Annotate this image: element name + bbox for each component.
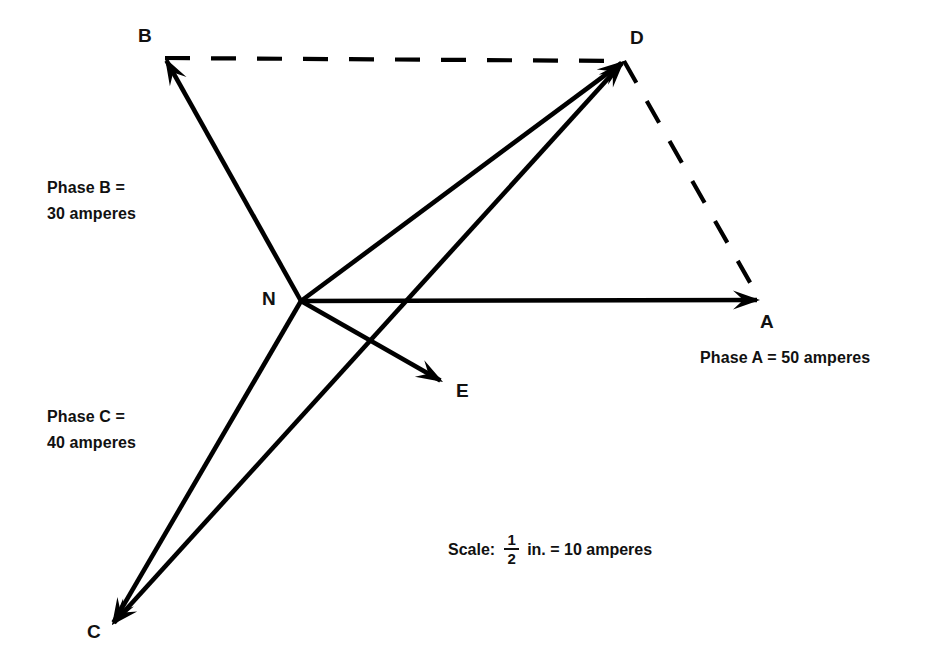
phase-a-line-1: Phase A = 50 amperes (700, 345, 870, 371)
vector-b-to-d (165, 58, 624, 61)
point-label-d: D (630, 28, 644, 47)
point-label-n: N (262, 289, 276, 308)
arrowhead-n-to-e-end (415, 360, 443, 382)
phase-a-annotation: Phase A = 50 amperes (700, 345, 870, 371)
phase-c-annotation: Phase C = 40 amperes (47, 404, 136, 456)
point-label-e: E (456, 381, 469, 400)
phase-c-line-2: 40 amperes (47, 430, 136, 456)
vector-d-to-a (624, 61, 760, 300)
vector-diagram-svg (0, 0, 941, 671)
scale-fraction: 1 2 (504, 532, 519, 567)
phase-b-line-2: 30 amperes (47, 201, 136, 227)
point-label-c: C (87, 622, 101, 641)
scale-tail: in. = 10 amperes (527, 542, 652, 558)
arrowhead-n-to-b-end (165, 58, 186, 86)
point-label-b: B (138, 26, 152, 45)
phase-b-line-1: Phase B = (47, 175, 136, 201)
scale-word: Scale: (448, 542, 495, 558)
vector-n-to-d (301, 63, 622, 301)
vector-diagram-canvas: B D N A E C Phase B = 30 amperes Phase C… (0, 0, 941, 671)
arrowheads-layer (112, 58, 760, 625)
vector-n-to-a (301, 300, 757, 301)
vector-n-to-c (114, 301, 301, 622)
scale-annotation: Scale: 1 2 in. = 10 amperes (448, 533, 652, 568)
vector-lines-layer (114, 58, 760, 623)
vector-n-to-b (166, 61, 301, 301)
fraction-numerator: 1 (504, 532, 518, 548)
point-label-a: A (760, 312, 774, 331)
phase-b-annotation: Phase B = 30 amperes (47, 175, 136, 227)
fraction-denominator: 2 (504, 550, 518, 566)
phase-c-line-1: Phase C = (47, 404, 136, 430)
